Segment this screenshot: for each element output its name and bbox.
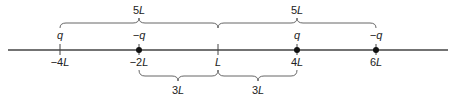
position-label-6L: 6L [370, 56, 382, 68]
bottom-brace-left [139, 70, 218, 81]
charge-label-minus-4L: q [57, 29, 64, 41]
charge-label-6L: −q [370, 29, 383, 41]
position-label-minus-2L: −2L [130, 56, 149, 68]
position-label-4L: 4L [291, 56, 303, 68]
diagram-svg: q −q q −q −4L −2L L 4L 6L 5L 5L 3L 3L [0, 0, 453, 102]
charge-label-4L: q [294, 29, 301, 41]
top-brace-left-label: 5L [133, 4, 145, 16]
charge-number-line-diagram: q −q q −q −4L −2L L 4L 6L 5L 5L 3L 3L [0, 0, 453, 102]
bottom-brace-right-label: 3L [252, 84, 264, 96]
charge-dot-4L [294, 47, 300, 53]
top-brace-right-label: 5L [291, 4, 303, 16]
bottom-brace-left-label: 3L [172, 84, 184, 96]
charge-dot-6L [373, 47, 379, 53]
position-label-L: L [215, 56, 221, 68]
top-brace-left [60, 18, 218, 28]
top-brace-right [218, 18, 376, 28]
charge-label-minus-2L: −q [133, 29, 146, 41]
charge-dot-minus-2L [136, 47, 142, 53]
position-label-minus-4L: −4L [51, 56, 70, 68]
bottom-brace-right [218, 70, 297, 81]
